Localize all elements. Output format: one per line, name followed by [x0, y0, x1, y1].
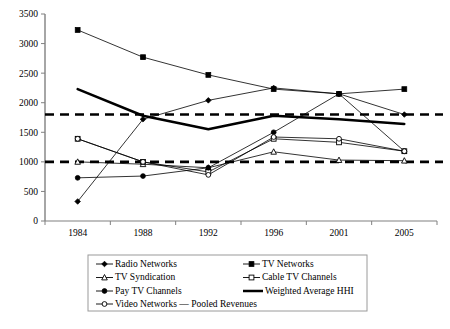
data-point — [206, 172, 211, 177]
x-axis-tick-label: 1992 — [199, 228, 218, 238]
legend-item-label: Cable TV Channels — [262, 272, 337, 282]
legend-item-label: Video Networks — Pooled Revenues — [115, 299, 257, 309]
chart-container: 0500100015002000250030003500 19841988199… — [0, 0, 450, 329]
legend-marker-symbol — [102, 302, 107, 307]
data-point — [402, 149, 407, 154]
y-axis-tick-label: 3000 — [19, 39, 38, 49]
series-line — [78, 137, 405, 175]
series-line — [78, 139, 405, 172]
x-axis-tick-label: 2001 — [330, 228, 349, 238]
chart-legend: Radio NetworksTV NetworksTV SyndicationC… — [88, 255, 367, 311]
hhi-line-chart: 0500100015002000250030003500 19841988199… — [0, 0, 450, 329]
data-point — [402, 112, 408, 118]
legend-marker-symbol — [249, 275, 254, 280]
series-tv-syndication — [75, 149, 407, 170]
y-axis-tick-label: 1500 — [19, 128, 38, 138]
data-point — [206, 73, 211, 78]
data-point — [271, 87, 276, 92]
legend-item-label: TV Networks — [262, 259, 314, 269]
data-point — [206, 98, 212, 104]
x-axis: 198419881992199620012005 — [45, 221, 437, 238]
legend-item-label: Radio Networks — [115, 259, 177, 269]
series-pay-tv-channels — [75, 91, 406, 180]
data-point — [337, 136, 342, 141]
data-point — [141, 55, 146, 60]
legend-item-label: TV Syndication — [115, 272, 176, 282]
series-line — [78, 89, 405, 129]
series-video-networks-pooled-revenues — [75, 135, 406, 178]
data-point — [402, 87, 407, 92]
x-axis-tick-label: 1988 — [134, 228, 153, 238]
y-axis-tick-label: 500 — [24, 187, 39, 197]
series-line — [78, 152, 405, 168]
data-point — [141, 159, 146, 164]
x-axis-tick-label: 1984 — [68, 228, 87, 238]
legend-item-label: Pay TV Channels — [115, 286, 182, 296]
data-point — [75, 175, 80, 180]
data-point — [75, 136, 80, 141]
legend-item: Video Networks — Pooled Revenues — [96, 299, 257, 309]
x-axis-tick-label: 2005 — [395, 228, 414, 238]
y-axis-tick-label: 0 — [33, 216, 38, 226]
data-point — [141, 174, 146, 179]
data-point — [271, 135, 276, 140]
series-line — [78, 94, 405, 178]
y-axis-tick-label: 2000 — [19, 98, 38, 108]
data-point — [271, 149, 277, 154]
y-axis-tick-label: 3500 — [19, 9, 38, 19]
data-point — [206, 165, 211, 170]
data-series — [75, 28, 407, 205]
y-axis-tick-label: 2500 — [19, 69, 38, 79]
y-axis-tick-label: 1000 — [19, 157, 38, 167]
series-tv-networks — [75, 28, 406, 97]
data-point — [271, 130, 276, 135]
x-axis-tick-label: 1996 — [264, 228, 283, 238]
data-point — [337, 91, 342, 96]
series-weighted-average-hhi — [78, 89, 405, 129]
data-point — [75, 28, 80, 33]
legend-item-label: Weighted Average HHI — [265, 286, 354, 296]
legend-marker-symbol — [102, 289, 107, 294]
legend-marker-symbol — [249, 262, 254, 267]
y-axis: 0500100015002000250030003500 — [19, 9, 45, 226]
series-line — [78, 30, 405, 94]
